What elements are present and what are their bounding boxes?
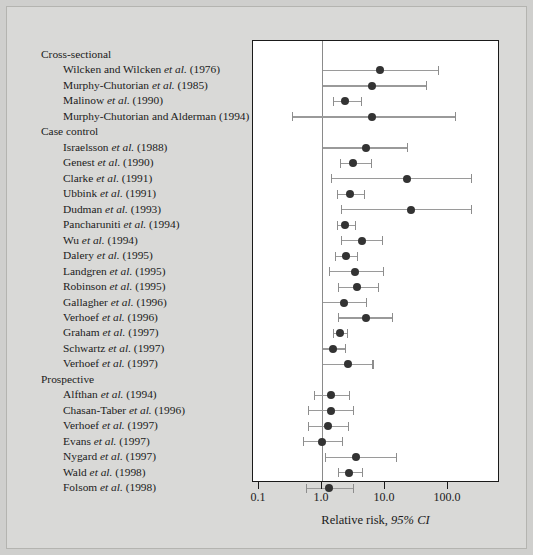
axis-tick xyxy=(384,482,385,489)
ci-upper-cap xyxy=(396,453,397,462)
estimate-row xyxy=(253,343,498,355)
study-year: (1995) xyxy=(120,249,153,261)
point-estimate-marker xyxy=(352,453,360,461)
axis-tick xyxy=(447,482,448,489)
ci-lower-cap xyxy=(325,453,326,462)
estimate-row xyxy=(253,467,498,479)
study-name: Israelsson xyxy=(63,141,111,153)
study-label: Israelsson et al. (1988) xyxy=(63,141,167,153)
study-label: Wald et al. (1998) xyxy=(63,466,146,478)
ci-lower-cap xyxy=(333,97,334,106)
study-name: Dudman xyxy=(63,203,105,215)
plot-panel xyxy=(252,40,499,482)
estimate-row xyxy=(253,451,498,463)
point-estimate-marker xyxy=(346,190,354,198)
study-name: Dalery xyxy=(63,249,97,261)
et-al: et al. xyxy=(111,141,134,153)
study-label: Murphy-Chutorian et al. (1985) xyxy=(63,79,208,91)
ci-lower-cap xyxy=(303,437,304,446)
study-label: Malinow et al. (1990) xyxy=(63,94,163,106)
ci-lower-cap xyxy=(322,344,323,353)
estimate-row xyxy=(253,173,498,185)
ci-upper-cap xyxy=(471,174,472,183)
point-estimate-marker xyxy=(341,221,349,229)
et-al: et al. xyxy=(108,342,131,354)
study-name: Schwartz xyxy=(63,342,108,354)
study-name: Genest xyxy=(63,156,97,168)
ci-lower-cap xyxy=(341,205,342,214)
point-estimate-marker xyxy=(376,66,384,74)
ci-lower-cap xyxy=(338,468,339,477)
study-year: (1991) xyxy=(119,172,152,184)
study-label: Chasan-Taber et al. (1996) xyxy=(63,404,185,416)
study-label: Dalery et al. (1995) xyxy=(63,249,153,261)
et-al: et al. xyxy=(100,450,123,462)
study-label: Dudman et al. (1993) xyxy=(63,203,161,215)
ci-upper-cap xyxy=(407,143,408,152)
ci-lower-cap xyxy=(322,298,323,307)
study-name: Graham xyxy=(63,326,103,338)
ci-lower-cap xyxy=(322,143,323,152)
study-label: Pancharuniti et al. (1994) xyxy=(63,218,179,230)
study-name: Murphy-Chutorian xyxy=(63,79,152,91)
axis-tick-label: 0.1 xyxy=(251,490,266,505)
study-name: Ubbink xyxy=(63,187,100,199)
estimate-row xyxy=(253,204,498,216)
ci-upper-cap xyxy=(382,236,383,245)
study-label: Gallagher et al. (1996) xyxy=(63,296,167,308)
ci-upper-cap xyxy=(353,406,354,415)
study-label: Alfthan et al. (1994) xyxy=(63,388,157,400)
study-name: Wald xyxy=(63,466,90,478)
study-label: Verhoef et al. (1997) xyxy=(63,419,158,431)
study-year: (1996) xyxy=(134,296,167,308)
ci-upper-cap xyxy=(349,391,350,400)
point-estimate-marker xyxy=(329,345,337,353)
study-name: Chasan-Taber xyxy=(63,404,129,416)
study-year: (1997) xyxy=(131,342,164,354)
study-year: (1997) xyxy=(125,326,158,338)
study-year: (1990) xyxy=(120,156,153,168)
study-label: Graham et al. (1997) xyxy=(63,326,159,338)
point-estimate-marker xyxy=(342,252,350,260)
study-year: (1997) xyxy=(116,435,149,447)
axis-tick-label: 1.0 xyxy=(314,490,329,505)
x-axis-title: Relative risk, 95% CI xyxy=(252,513,499,528)
study-year: (1994) xyxy=(123,388,156,400)
et-al: et al. xyxy=(102,419,125,431)
study-year: (1991) xyxy=(123,187,156,199)
et-al: et al. xyxy=(97,249,120,261)
et-al: et al. xyxy=(110,280,133,292)
estimate-row xyxy=(253,358,498,370)
study-name: Wilcken and Wilcken xyxy=(63,63,164,75)
et-al: et al. xyxy=(107,94,130,106)
ci-upper-cap xyxy=(345,344,346,353)
study-year: (1994) xyxy=(216,110,249,122)
study-name: Verhoef xyxy=(63,357,102,369)
study-name: Verhoef xyxy=(63,311,102,323)
point-estimate-marker xyxy=(362,314,370,322)
axis-tick xyxy=(321,482,322,489)
et-al: et al. xyxy=(152,79,175,91)
point-estimate-marker xyxy=(368,113,376,121)
point-estimate-marker xyxy=(368,82,376,90)
estimate-row xyxy=(253,312,498,324)
estimate-row xyxy=(253,80,498,92)
study-label: Nygard et al. (1997) xyxy=(63,450,156,462)
estimate-row xyxy=(253,95,498,107)
ci-upper-cap xyxy=(366,298,367,307)
study-label: Murphy-Chutorian and Alderman (1994) xyxy=(63,110,249,122)
study-year: (1990) xyxy=(130,94,163,106)
estimate-row xyxy=(253,250,498,262)
study-year: (1985) xyxy=(175,79,208,91)
point-estimate-marker xyxy=(324,422,332,430)
ci-upper-cap xyxy=(371,159,372,168)
study-year: (1994) xyxy=(105,234,138,246)
estimate-row xyxy=(253,111,498,123)
ci-upper-cap xyxy=(392,313,393,322)
et-al: et al. xyxy=(100,187,123,199)
ci-lower-cap xyxy=(292,112,293,121)
point-estimate-marker xyxy=(353,283,361,291)
estimate-row xyxy=(253,281,498,293)
ci-lower-cap xyxy=(322,66,323,75)
estimate-row xyxy=(253,436,498,448)
